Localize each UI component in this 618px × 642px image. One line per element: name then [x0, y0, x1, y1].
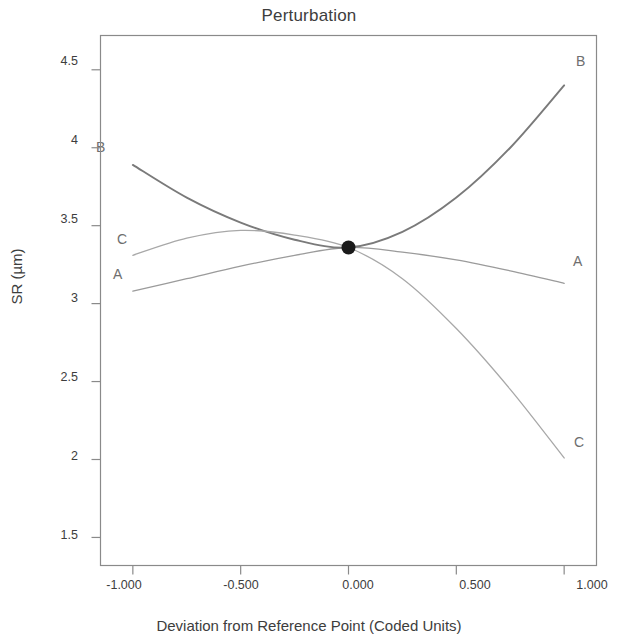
series-curves [133, 85, 564, 458]
plot-canvas [0, 0, 618, 642]
curve-c [133, 230, 564, 458]
reference-point-dot [342, 241, 356, 255]
perturbation-chart: Perturbation SR (µm) Deviation from Refe… [0, 0, 618, 642]
plot-frame [101, 36, 597, 566]
curve-b [133, 85, 564, 247]
axis-ticks [92, 70, 565, 575]
reference-point-marker [342, 241, 356, 255]
